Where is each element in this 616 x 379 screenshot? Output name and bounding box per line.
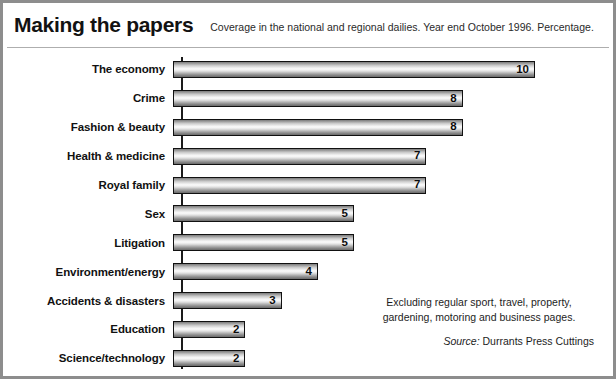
bar-row: Crime8: [0, 84, 616, 113]
bar-value-label: 2: [233, 324, 244, 336]
bar-track: 5: [173, 199, 616, 228]
bar-track: 5: [173, 228, 616, 257]
bar-value-label: 7: [414, 150, 425, 162]
bar-row: Sex5: [0, 199, 616, 228]
bar-track: 7: [173, 171, 616, 200]
bar: 3: [173, 292, 282, 309]
bar: 2: [173, 350, 245, 367]
bar-row: Royal family7: [0, 171, 616, 200]
chart-subtitle: Coverage in the national and regional da…: [210, 22, 594, 33]
category-label: Environment/energy: [0, 266, 173, 278]
bar-value-label: 10: [516, 64, 534, 76]
category-label: Science/technology: [0, 352, 173, 364]
footnote-source: Source: Durrants Press Cuttings: [364, 334, 594, 349]
chart-figure: Making the papers Coverage in the nation…: [0, 0, 616, 379]
bar: 5: [173, 205, 354, 222]
bar-row: Litigation5: [0, 228, 616, 257]
source-label: Source:: [443, 335, 479, 347]
category-label: Accidents & disasters: [0, 295, 173, 307]
category-label: Education: [0, 323, 173, 335]
category-label: Litigation: [0, 237, 173, 249]
bar-track: 4: [173, 257, 616, 286]
bar: 7: [173, 177, 426, 194]
bar-value-label: 2: [233, 353, 244, 365]
bar-row: Environment/energy4: [0, 257, 616, 286]
bar-track: 10: [173, 55, 616, 84]
bar-row: The economy10: [0, 55, 616, 84]
bar-value-label: 5: [342, 208, 353, 220]
bar-row: Health & medicine7: [0, 142, 616, 171]
bar-track: 8: [173, 84, 616, 113]
bar-value-label: 8: [450, 93, 461, 105]
category-label: Sex: [0, 208, 173, 220]
bar: 8: [173, 90, 463, 107]
category-label: Royal family: [0, 179, 173, 191]
page-title: Making the papers: [14, 14, 193, 35]
footnote-note: Excluding regular sport, travel, propert…: [364, 295, 594, 325]
category-label: Health & medicine: [0, 150, 173, 162]
category-label: Crime: [0, 92, 173, 104]
category-label: The economy: [0, 63, 173, 75]
chart-footnote: Excluding regular sport, travel, propert…: [364, 295, 594, 350]
chart-header: Making the papers Coverage in the nation…: [14, 14, 602, 46]
bar-value-label: 5: [342, 237, 353, 249]
bar: 8: [173, 119, 463, 136]
bar-track: 7: [173, 142, 616, 171]
bar: 2: [173, 321, 245, 338]
bar-value-label: 4: [305, 266, 316, 278]
bar: 5: [173, 234, 354, 251]
bar: 7: [173, 148, 426, 165]
category-label: Fashion & beauty: [0, 121, 173, 133]
source-name: Durrants Press Cuttings: [483, 335, 594, 347]
bar: 4: [173, 263, 318, 280]
bar-row: Fashion & beauty8: [0, 113, 616, 142]
bar-value-label: 3: [269, 295, 280, 307]
bar-value-label: 7: [414, 179, 425, 191]
bar-track: 8: [173, 113, 616, 142]
header-divider: [7, 47, 609, 48]
bar: 10: [173, 61, 535, 78]
bar-value-label: 8: [450, 121, 461, 133]
